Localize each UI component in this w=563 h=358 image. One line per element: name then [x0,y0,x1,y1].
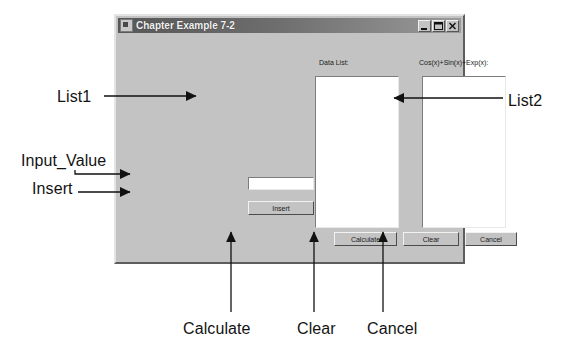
dialog-title: Chapter Example 7-2 [136,20,417,31]
close-button[interactable] [446,20,459,32]
annotation-label-list1: List1 [57,88,91,106]
list1-listbox[interactable] [315,76,399,228]
dialog-window: Chapter Example 7-2 [114,14,465,264]
annotation-label-input-value: Input_Value [21,152,106,170]
minimize-button[interactable] [418,20,431,32]
maximize-button[interactable] [432,20,445,32]
list2-listbox[interactable] [422,76,506,228]
annotation-label-cancel: Cancel [367,320,417,338]
insert-button[interactable]: Insert [248,201,314,215]
annotation-label-insert: Insert [32,180,73,198]
dialog-titlebar[interactable]: Chapter Example 7-2 [118,18,461,33]
annotation-label-calculate: Calculate [183,320,251,338]
annotation-label-list2: List2 [508,92,542,110]
data-list-label: Data List: [319,59,349,66]
clear-button[interactable]: Clear [403,232,459,246]
annotated-dialog-figure: Chapter Example 7-2 [0,0,563,358]
input-value-field[interactable] [248,177,314,190]
expression-label: Cos(x)+Sin(x)+Exp(x): [419,59,488,66]
annotation-label-clear: Clear [297,320,336,338]
cancel-button[interactable]: Cancel [465,232,517,246]
calculate-button[interactable]: Calculate [334,232,397,246]
app-window-icon [120,19,133,32]
